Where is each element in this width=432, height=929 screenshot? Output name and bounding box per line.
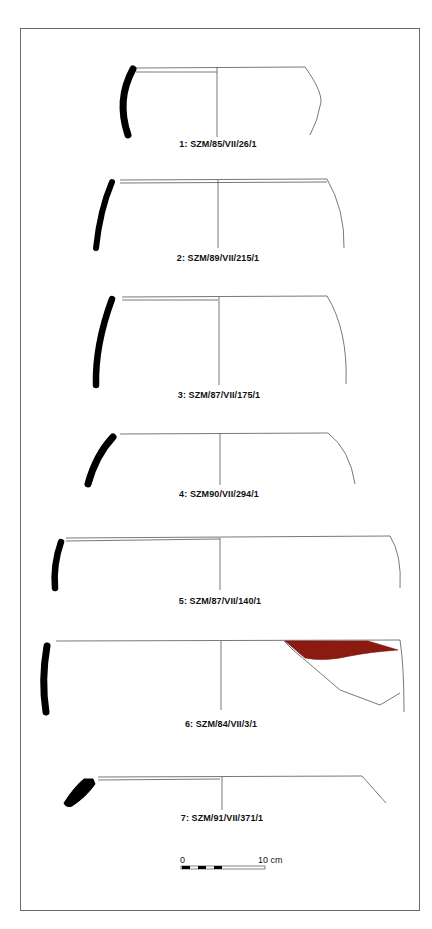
- vessel-2-profile: [96, 179, 344, 248]
- vessel-4-profile: [88, 433, 355, 485]
- scale-start-label: 0: [180, 855, 185, 865]
- vessel-7-profile: [64, 776, 386, 810]
- vessel-1-label: 1: SZM/85/VII/26/1: [179, 139, 256, 149]
- vessel-4-label: 4: SZM90/VII/294/1: [179, 489, 259, 499]
- vessel-5-label: 5: SZM/87/VII/140/1: [179, 596, 261, 606]
- scale-bar: [181, 866, 265, 869]
- vessel-3-label: 3: SZM/87/VII/175/1: [178, 390, 260, 400]
- scale-end-label: 10 cm: [258, 855, 283, 865]
- vessel-3-profile: [96, 296, 346, 385]
- vessel-1-profile: [123, 67, 321, 137]
- vessel-5-profile: [55, 536, 401, 590]
- vessel-6-profile: [44, 640, 404, 712]
- vessel-6-label: 6: SZM/84/VII/3/1: [185, 719, 257, 729]
- vessel-7-label: 7: SZM/91/VII/371/1: [181, 813, 263, 823]
- painted-band: [285, 641, 398, 660]
- vessel-2-label: 2: SZM/89/VII/215/1: [177, 253, 259, 263]
